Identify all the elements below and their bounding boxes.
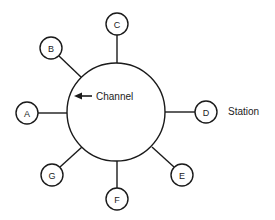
station-label-c: C bbox=[114, 20, 121, 30]
connector-b bbox=[59, 56, 82, 78]
station-node-b: B bbox=[40, 37, 62, 59]
channel-ring bbox=[67, 63, 165, 161]
station-node-e: E bbox=[171, 164, 193, 186]
station-label-f: F bbox=[114, 195, 120, 205]
station-node-c: C bbox=[106, 13, 128, 35]
station-node-a: A bbox=[16, 102, 38, 124]
network-diagram: Channel A B C D E F G Station bbox=[0, 0, 275, 220]
station-label-d: D bbox=[203, 108, 210, 118]
station-annotation: Station bbox=[228, 106, 259, 117]
station-node-g: G bbox=[41, 164, 63, 186]
channel-label: Channel bbox=[96, 91, 133, 102]
connector-g bbox=[60, 147, 82, 167]
station-label-a: A bbox=[24, 109, 30, 119]
station-label-e: E bbox=[179, 171, 185, 181]
station-label-g: G bbox=[48, 171, 55, 181]
station-node-f: F bbox=[106, 188, 128, 210]
station-label-b: B bbox=[48, 44, 54, 54]
station-node-d: D bbox=[195, 101, 217, 123]
connector-e bbox=[152, 147, 174, 167]
